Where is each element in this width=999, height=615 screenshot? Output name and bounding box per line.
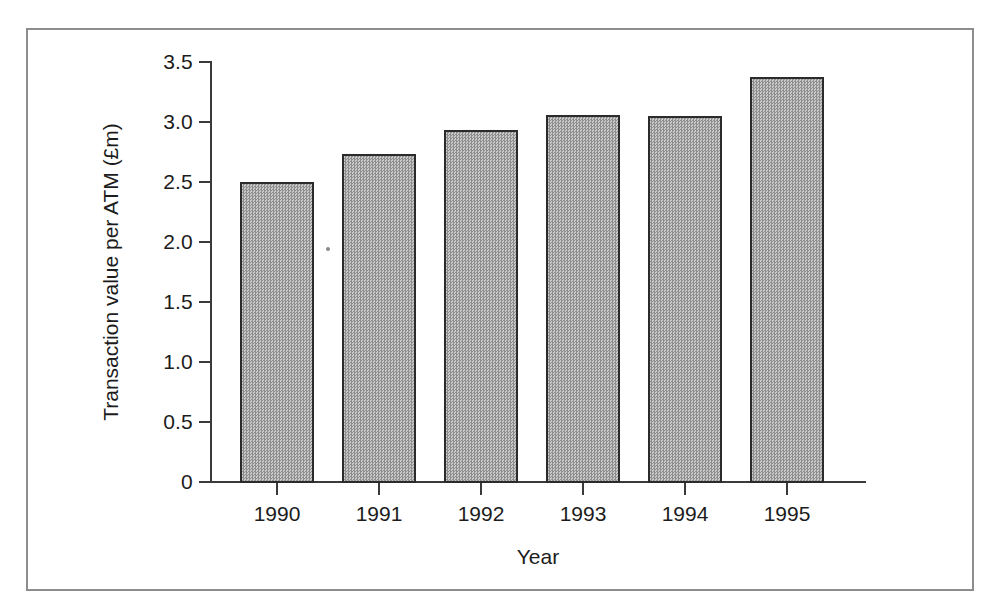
y-axis-tick: [199, 361, 210, 363]
bar-1994: [648, 116, 722, 483]
x-axis-tick: [786, 483, 788, 495]
y-axis-tick-label: 2.5: [73, 171, 193, 192]
y-axis-line: [210, 61, 212, 482]
x-axis-tick: [378, 483, 380, 495]
x-axis-tick: [480, 483, 482, 495]
y-axis-tick-label: 1.0: [73, 351, 193, 372]
y-axis-tick: [199, 61, 210, 63]
y-axis-tick: [199, 481, 210, 483]
x-axis-title: Year: [210, 545, 866, 569]
y-axis-tick-label: 2.0: [73, 231, 193, 252]
x-axis-tick: [276, 483, 278, 495]
y-axis-tick-label: 3.0: [73, 111, 193, 132]
x-axis-tick-label: 1995: [727, 503, 847, 524]
y-axis-tick: [199, 241, 210, 243]
y-axis-tick-label: 0.5: [73, 411, 193, 432]
y-axis-tick-label: 3.5: [73, 51, 193, 72]
bar-1992: [444, 130, 518, 483]
y-axis-tick: [199, 121, 210, 123]
bar-1991: [342, 154, 416, 483]
bar-1990: [240, 182, 314, 483]
x-axis-tick: [582, 483, 584, 495]
y-axis-tick-label: 0: [73, 471, 193, 492]
y-axis-tick: [199, 301, 210, 303]
bar-chart-plot-area: 0 0.5 1.0 1.5 2.0 2.5 3.0 3.5 1990 1991 …: [0, 0, 999, 615]
y-axis-tick-label: 1.5: [73, 291, 193, 312]
y-axis-tick: [199, 421, 210, 423]
y-axis-title: Transaction value per ATM (£m): [99, 62, 123, 482]
x-axis-tick: [684, 483, 686, 495]
bar-1993: [546, 115, 620, 483]
scan-artifact-speck: [326, 247, 330, 251]
bar-1995: [750, 77, 824, 483]
figure: 0 0.5 1.0 1.5 2.0 2.5 3.0 3.5 1990 1991 …: [0, 0, 999, 615]
y-axis-tick: [199, 181, 210, 183]
